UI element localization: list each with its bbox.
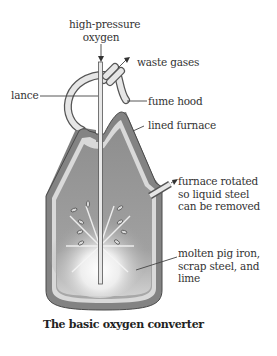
label-lined-furnace: lined furnace: [148, 119, 216, 132]
label-furnace-rotated: furnace rotated so liquid steel can be r…: [178, 175, 260, 213]
label-rotated-line3: can be removed: [178, 200, 260, 213]
furnace-shell: [46, 112, 162, 310]
label-oxygen-line2: oxygen: [69, 31, 133, 44]
label-fume-hood: fume hood: [148, 95, 202, 108]
label-rotated-line2: so liquid steel: [178, 188, 260, 201]
label-molten: molten pig iron, scrap steel, and lime: [178, 247, 260, 285]
label-lance: lance: [11, 89, 38, 102]
label-waste-gases: waste gases: [137, 56, 199, 69]
diagram-caption: The basic oxygen converter: [43, 318, 204, 331]
label-oxygen: high-pressure oxygen: [69, 18, 133, 43]
label-oxygen-line1: high-pressure: [69, 18, 133, 31]
label-molten-line3: lime: [178, 272, 260, 285]
lance: [99, 62, 103, 284]
label-molten-line1: molten pig iron,: [178, 247, 260, 260]
basic-oxygen-converter-diagram: high-pressure oxygen waste gases lance f…: [0, 0, 277, 356]
label-rotated-line1: furnace rotated: [178, 175, 260, 188]
label-molten-line2: scrap steel, and: [178, 260, 260, 273]
